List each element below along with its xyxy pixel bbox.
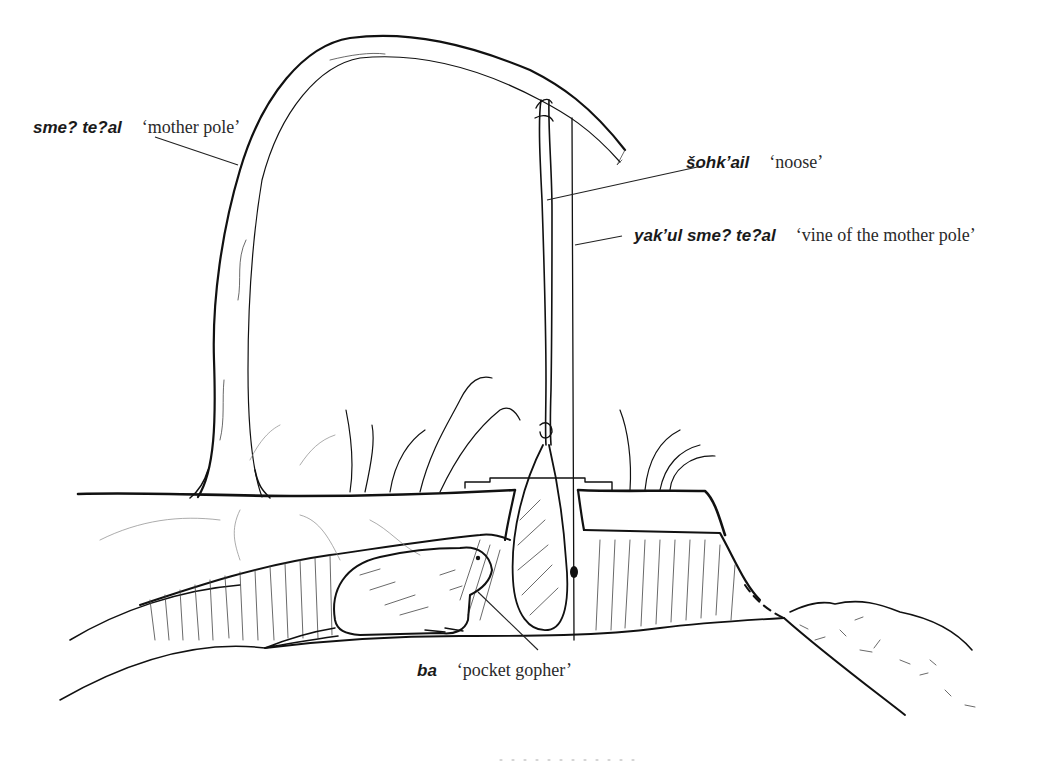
gloss-text: ‘mother pole’	[142, 117, 240, 137]
gloss-text: ‘noose’	[769, 152, 823, 172]
term-text: yak’ul sme? te?al	[634, 226, 776, 245]
mother-pole-drawing	[190, 36, 625, 498]
leader-lines	[155, 137, 702, 650]
noose-drawing	[513, 99, 568, 630]
label-gopher: ba‘pocket gopher’	[417, 660, 572, 681]
label-noose: šohk’ail‘noose’	[686, 152, 823, 173]
line-drawing	[0, 0, 1049, 769]
vine-drawing	[570, 118, 578, 640]
label-mother-pole: sme? te?al‘mother pole’	[33, 117, 240, 138]
grass-drawing	[250, 377, 715, 492]
gopher-drawing	[265, 547, 492, 648]
gloss-text: ‘vine of the mother pole’	[796, 225, 976, 245]
term-text: sme? te?al	[33, 118, 122, 137]
tunnel-hatching	[150, 540, 735, 640]
term-text: šohk’ail	[686, 153, 749, 172]
label-vine: yak’ul sme? te?al‘vine of the mother pol…	[634, 225, 976, 246]
gloss-text: ‘pocket gopher’	[457, 660, 572, 680]
term-text: ba	[417, 661, 437, 680]
trap-illustration: sme? te?al‘mother pole’ šohk’ail‘noose’ …	[0, 0, 1049, 769]
